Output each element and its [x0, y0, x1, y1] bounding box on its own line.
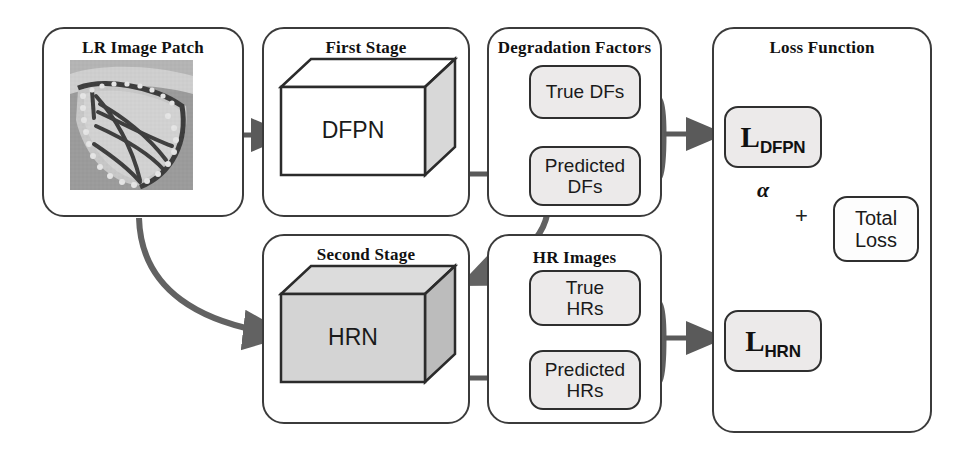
box-true-hrs: True HRs — [529, 270, 641, 326]
box-total-loss: Total Loss — [833, 196, 919, 262]
hrn-cuboid: HRN — [277, 262, 467, 392]
pipeline-diagram: LR Image Patch — [0, 0, 964, 458]
loss-hrn-main: L — [745, 325, 764, 357]
panel-title-lr-image-patch: LR Image Patch — [44, 38, 242, 58]
butterfly-wing-graphic — [70, 60, 193, 190]
box-true-dfs: True DFs — [529, 65, 641, 119]
box-loss-hrn: LHRN — [724, 310, 822, 372]
panel-title-hr-images: HR Images — [489, 248, 660, 268]
panel-title-degradation-factors: Degradation Factors — [489, 38, 660, 58]
alpha-coefficient-label: α — [757, 177, 769, 203]
loss-dfpn-sub: DFPN — [760, 138, 805, 157]
plus-operator-label: + — [795, 203, 808, 229]
dfpn-cuboid: DFPN — [277, 55, 467, 185]
box-loss-dfpn: LDFPN — [724, 106, 822, 168]
dfpn-block-label: DFPN — [322, 117, 385, 143]
box-predicted-dfs: Predicted DFs — [529, 146, 641, 206]
panel-title-loss-function: Loss Function — [714, 38, 930, 58]
loss-hrn-label: LHRN — [745, 325, 801, 357]
box-predicted-hrs: Predicted HRs — [529, 350, 641, 410]
hrn-block-label: HRN — [328, 324, 378, 350]
loss-dfpn-main: L — [741, 121, 760, 153]
lr-image-thumbnail — [70, 60, 193, 190]
loss-dfpn-label: LDFPN — [741, 121, 806, 153]
loss-hrn-sub: HRN — [765, 342, 801, 361]
